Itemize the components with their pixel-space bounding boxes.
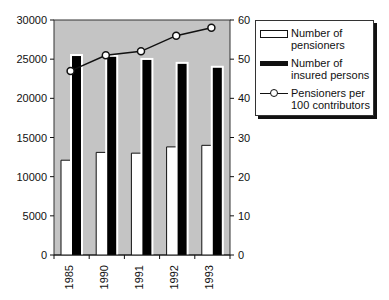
y-tick-label: 0: [41, 249, 47, 261]
x-tick-label: 1992: [168, 265, 180, 289]
y2-tick-label: 30: [238, 132, 250, 144]
legend-item-pensioners: Number of pensioners: [260, 27, 345, 51]
x-tick-label: 1985: [63, 265, 75, 289]
y2-tick-label: 0: [238, 249, 244, 261]
legend-label: Number of: [291, 27, 345, 39]
y-tick-label: 10000: [16, 171, 47, 183]
y-tick-label: 30000: [16, 14, 47, 26]
line-marker-swatch-icon: [260, 87, 288, 99]
y2-tick-label: 20: [238, 171, 250, 183]
ratio-marker: [173, 32, 180, 39]
white-bar-swatch-icon: [260, 27, 288, 39]
y2-tick-label: 10: [238, 210, 250, 222]
black-bar-swatch-icon: [260, 57, 288, 69]
legend-label: Number of: [291, 57, 369, 69]
insured-bar: [178, 64, 187, 255]
x-tick-label: 1990: [98, 265, 110, 289]
legend-item-insured: Number of insured persons: [260, 57, 369, 81]
y2-tick-label: 50: [238, 53, 250, 65]
insured-bar: [107, 57, 116, 255]
legend-item-ratio: Pensioners per 100 contributors: [260, 87, 370, 111]
insured-bar: [213, 68, 222, 255]
x-tick-label: 1991: [133, 265, 145, 289]
ratio-marker: [208, 24, 215, 31]
ratio-marker: [138, 48, 145, 55]
y-tick-label: 5000: [23, 210, 47, 222]
legend-label: pensioners: [291, 39, 345, 51]
legend-label: 100 contributors: [291, 99, 370, 111]
y-tick-label: 25000: [16, 53, 47, 65]
insured-bar: [142, 60, 151, 255]
x-tick-label: 1993: [203, 265, 215, 289]
legend: Number of pensioners Number of insured p…: [255, 20, 374, 116]
legend-label: insured persons: [291, 69, 369, 81]
ratio-marker: [67, 67, 74, 74]
y-tick-label: 15000: [16, 132, 47, 144]
ratio-marker: [102, 52, 109, 59]
insured-bar: [72, 56, 81, 255]
y-tick-label: 20000: [16, 92, 47, 104]
legend-label: Pensioners per: [291, 87, 370, 99]
y2-tick-label: 60: [238, 14, 250, 26]
y2-tick-label: 40: [238, 92, 250, 104]
